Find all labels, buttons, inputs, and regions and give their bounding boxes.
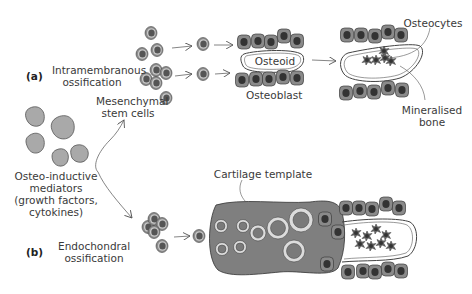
panel-a-title-line1: Intramembranous (52, 64, 132, 76)
mediators-line2: mediators (14, 182, 98, 194)
mediators-line1: Osteo-inductive (14, 170, 98, 182)
chondrocyte-precursor (193, 230, 205, 243)
panel-b-label: (b) (26, 246, 43, 258)
osteoblasts-bottom-a (236, 70, 304, 87)
osteocytes-label: Osteocytes (402, 17, 464, 29)
mesenchymal-label: Mesenchymal stem cells (96, 95, 160, 119)
osteocytes-b (351, 224, 396, 251)
leader-cartilage (240, 180, 246, 202)
arrow-to-mesenchymal (96, 120, 124, 172)
panel-b-title-line1: Endochondral (58, 240, 130, 252)
panel-a-title: Intramembranous ossification (52, 64, 132, 88)
mesenchymal-line2: stem cells (96, 107, 160, 119)
cartilage-template-label: Cartilage template (212, 168, 314, 180)
osteoid-label: Osteoid (250, 55, 300, 67)
msc-single (197, 38, 209, 51)
mineralised-line2: bone (400, 116, 464, 128)
msc-cluster-b (142, 213, 168, 253)
mesenchymal-line1: Mesenchymal (96, 95, 160, 107)
osteoblasts-top-a (238, 29, 304, 49)
osteoblasts-bottom-a2 (340, 81, 409, 100)
panel-b-title-line2: ossification (58, 252, 130, 264)
mediators-label: Osteo-inductive mediators (growth factor… (14, 170, 98, 218)
panel-b-title: Endochondral ossification (58, 240, 130, 264)
arrow-b (174, 236, 190, 237)
panel-a-title-line2: ossification (52, 76, 132, 88)
osteoblasts-bottom-b (342, 262, 408, 279)
osteoblasts-top-b (340, 197, 406, 216)
mineralised-bone-label: Mineralised bone (400, 104, 464, 128)
msc-single (197, 68, 209, 81)
osteoblast-label: Osteoblast (246, 89, 302, 101)
panel-a-label: (a) (26, 70, 43, 82)
mediators-line3: (growth factors, (14, 194, 98, 206)
arrow-to-endochondral (98, 172, 132, 218)
osteoblasts-top-a2 (341, 25, 408, 43)
mineralised-line1: Mineralised (400, 104, 464, 116)
mediator-cells (26, 107, 89, 166)
mediators-line4: cytokines) (14, 206, 98, 218)
